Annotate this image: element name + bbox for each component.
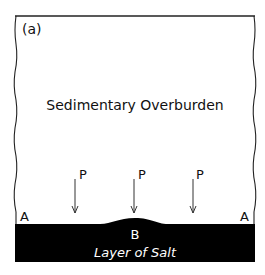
frame-left-break-line xyxy=(14,16,17,224)
panel-label: (a) xyxy=(22,21,42,37)
point-a-left-label: A xyxy=(20,209,29,224)
salt-dome-diagram: (a) Sedimentary Overburden P P P A A B L… xyxy=(0,0,265,275)
pressure-label-3: P xyxy=(196,167,204,182)
arrow-down-icon-3 xyxy=(190,179,196,213)
pressure-label-1: P xyxy=(79,167,87,182)
salt-layer-label: Layer of Salt xyxy=(94,245,177,260)
point-a-right-label: A xyxy=(240,209,249,224)
frame-right-break-line xyxy=(253,16,256,224)
overburden-label: Sedimentary Overburden xyxy=(46,97,223,113)
arrow-down-icon-2 xyxy=(131,179,137,213)
pressure-label-2: P xyxy=(138,167,146,182)
pressure-arrows xyxy=(72,179,196,213)
point-b-label: B xyxy=(131,227,140,242)
arrow-down-icon-1 xyxy=(72,179,78,213)
